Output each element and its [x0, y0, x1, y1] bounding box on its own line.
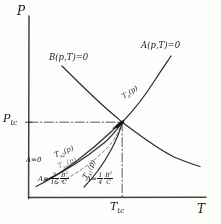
- y-axis-label: P: [17, 5, 25, 17]
- formula-left-c: C: [60, 179, 69, 185]
- diagram-canvas: [0, 0, 221, 224]
- formula-right-c: C: [104, 179, 113, 185]
- annotation-a-zero: A=0: [26, 157, 41, 164]
- formula-left-b-exponent: 2: [65, 171, 67, 175]
- formula-right-bc: B2 C: [104, 172, 113, 186]
- tss-argument: (p): [65, 156, 77, 167]
- formula-left: A= 3 16 B2 C: [38, 172, 69, 186]
- formula-right-lhs: A=: [86, 175, 97, 183]
- formula-right: A= 1 4 B2 C: [86, 172, 114, 186]
- formula-right-fraction: 1 4: [97, 172, 103, 186]
- formula-right-b-exponent: 2: [110, 171, 112, 175]
- formula-left-lhs: A=: [38, 175, 49, 183]
- x-axis-label: T: [197, 203, 205, 215]
- formula-left-bc: B2 C: [60, 172, 69, 186]
- x-tick-label-ttc: Ttc: [110, 201, 124, 214]
- formula-right-denominator: 4: [97, 179, 103, 185]
- y-tick-subscript: tc: [10, 118, 17, 127]
- formula-left-fraction: 3 16: [49, 172, 59, 186]
- formula-left-denominator: 16: [49, 179, 59, 185]
- curve-label-b: B(p,T)=0: [49, 53, 88, 62]
- phase-diagram-figure: P T Ptc Ttc B(p,T)=0 A(p,T)=0 Tc(p) Ts2(…: [0, 0, 221, 224]
- curve-b-pt-zero: [62, 66, 200, 167]
- y-tick-label-ptc: Ptc: [3, 113, 17, 126]
- curve-label-a: A(p,T)=0: [141, 41, 180, 50]
- x-tick-subscript: tc: [117, 206, 124, 215]
- curve-a-pt-zero: [36, 56, 171, 187]
